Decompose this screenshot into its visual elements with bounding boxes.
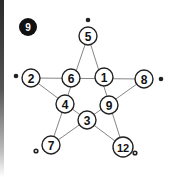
node-label: 1 <box>101 71 108 85</box>
node-bottom-right: 12 <box>113 137 133 157</box>
magic-star-diagram: 9 5 6 1 2 8 4 9 3 7 <box>0 0 175 177</box>
dot-bottom-left-icon <box>34 149 38 153</box>
dot-right-icon <box>159 77 164 82</box>
node-inner-bottom: 3 <box>78 111 96 129</box>
node-label: 2 <box>28 72 35 86</box>
dot-left-icon <box>14 74 19 79</box>
node-label: 3 <box>84 114 91 128</box>
node-label: 4 <box>62 98 69 112</box>
node-label: 6 <box>68 72 75 86</box>
node-label: 7 <box>48 139 55 153</box>
node-label: 12 <box>117 142 129 154</box>
dot-bottom-right-icon <box>133 151 137 155</box>
node-inner-right: 1 <box>95 68 113 86</box>
node-right: 8 <box>135 70 153 88</box>
node-label: 8 <box>141 73 148 87</box>
node-inner-bottom-left: 4 <box>56 95 74 113</box>
node-label: 9 <box>106 99 113 113</box>
node-top: 5 <box>79 27 97 45</box>
star-lines <box>31 36 144 147</box>
puzzle-number: 9 <box>25 22 31 33</box>
node-inner-left: 6 <box>62 69 80 87</box>
node-label: 5 <box>85 30 92 44</box>
puzzle-number-badge: 9 <box>19 18 37 36</box>
node-inner-bottom-right: 9 <box>100 96 118 114</box>
node-left: 2 <box>22 69 40 87</box>
node-bottom-left: 7 <box>42 136 60 154</box>
dot-top-icon <box>86 18 91 23</box>
